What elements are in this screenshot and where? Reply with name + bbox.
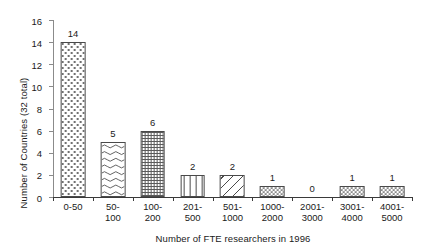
bar	[61, 42, 86, 197]
x-category-label: 3001- 4000	[340, 201, 364, 223]
plot-area: 0246810121416 140-50550-1006100-2002201-…	[53, 20, 412, 197]
y-tick-label: 6	[37, 126, 42, 137]
x-category-label: 2001- 3000	[300, 201, 324, 223]
x-tick	[213, 197, 214, 201]
bar	[100, 142, 125, 197]
bar	[260, 186, 285, 197]
category-slot: 14001- 5000	[372, 20, 412, 197]
bar-value-label: 1	[350, 172, 355, 183]
category-slot: 11000- 2000	[252, 20, 292, 197]
y-tick-label: 2	[37, 170, 42, 181]
y-tick-label: 12	[31, 59, 42, 70]
bar-chart-figure: Number of Countries (32 total) 024681012…	[0, 0, 425, 252]
x-category-label: 0-50	[63, 201, 82, 212]
category-slot: 6100-200	[133, 20, 173, 197]
category-slot: 2501-1000	[213, 20, 253, 197]
bar-value-label: 2	[190, 161, 195, 172]
y-tick-label: 0	[37, 192, 42, 203]
x-axis-line	[53, 197, 412, 198]
bar-value-label: 14	[68, 28, 79, 39]
y-tick-label: 4	[37, 148, 42, 159]
x-tick	[252, 197, 253, 201]
bar	[340, 186, 365, 197]
x-tick	[93, 197, 94, 201]
x-category-label: 100-200	[143, 201, 163, 223]
bar	[180, 175, 205, 197]
y-axis-title: Number of Countries (32 total)	[16, 0, 32, 252]
bar	[140, 131, 165, 197]
x-tick	[372, 197, 373, 201]
bar	[380, 186, 405, 197]
category-slot: 02001- 3000	[292, 20, 332, 197]
x-category-label: 4001- 5000	[380, 201, 404, 223]
x-tick	[53, 197, 54, 201]
bar-value-label: 6	[150, 117, 155, 128]
bar-value-label: 5	[110, 128, 115, 139]
bar-value-label: 0	[310, 183, 315, 194]
category-slot: 13001- 4000	[332, 20, 372, 197]
x-tick	[412, 197, 413, 201]
x-category-label: 1000- 2000	[260, 201, 284, 223]
category-slot: 140-50	[53, 20, 93, 197]
bar	[220, 175, 245, 197]
x-category-label: 501-1000	[222, 201, 243, 223]
y-axis-title-label: Number of Countries (32 total)	[16, 0, 32, 252]
y-tick-label: 8	[37, 104, 42, 115]
y-tick-label: 10	[31, 81, 42, 92]
bar-value-label: 1	[270, 172, 275, 183]
bar-value-label: 2	[230, 161, 235, 172]
bar-value-label: 1	[389, 172, 394, 183]
x-tick	[292, 197, 293, 201]
x-axis-title: Number of FTE researchers in 1996	[53, 233, 413, 244]
x-tick	[133, 197, 134, 201]
x-category-label: 50-100	[103, 201, 123, 223]
x-tick	[332, 197, 333, 201]
category-slot: 550-100	[93, 20, 133, 197]
x-category-label: 201-500	[183, 201, 203, 223]
y-tick-label: 16	[31, 15, 42, 26]
y-tick-label: 14	[31, 37, 42, 48]
category-slot: 2201-500	[173, 20, 213, 197]
x-tick	[173, 197, 174, 201]
